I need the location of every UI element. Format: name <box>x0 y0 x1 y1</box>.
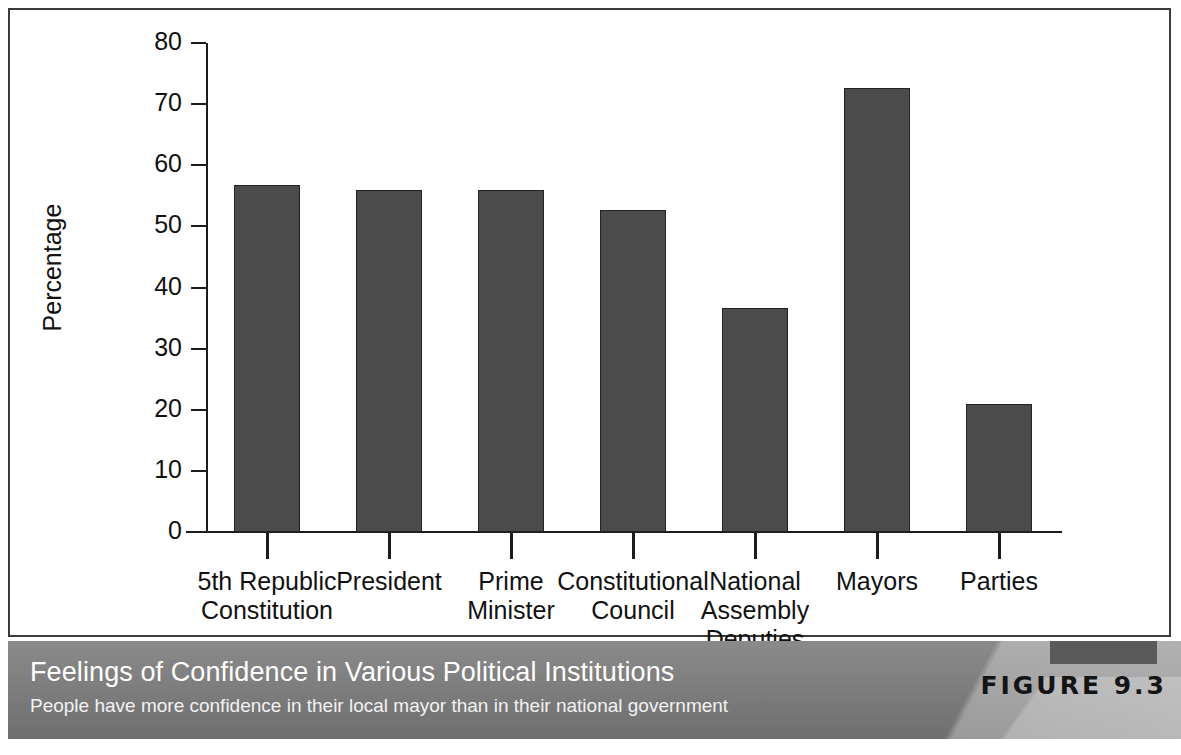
bar <box>478 190 544 532</box>
y-axis-tick <box>191 225 206 227</box>
y-axis-tick-label: 50 <box>122 212 182 237</box>
y-axis-tick-label: 20 <box>122 396 182 421</box>
y-axis-tick <box>191 470 206 472</box>
bar-series <box>206 43 1060 532</box>
caption-subtitle: People have more confidence in their loc… <box>30 695 728 717</box>
y-axis-tick-label: 10 <box>122 457 182 482</box>
x-axis-tick <box>510 533 513 559</box>
x-axis-tick <box>998 533 1001 559</box>
y-axis-tick <box>191 164 206 166</box>
chart-panel: Percentage 01020304050607080 5th Republi… <box>8 8 1171 637</box>
y-axis-tick-label: 70 <box>122 90 182 115</box>
bar <box>966 404 1032 532</box>
y-axis-tick <box>191 103 206 105</box>
y-axis-tick-label: 0 <box>122 518 182 543</box>
x-axis-tick <box>876 533 879 559</box>
bar <box>722 308 788 532</box>
bar <box>234 185 300 532</box>
y-axis-tick-label: 80 <box>122 29 182 54</box>
y-axis-tick <box>191 531 206 533</box>
y-axis-tick <box>191 348 206 350</box>
y-axis-tick <box>191 42 206 44</box>
bar <box>356 190 422 532</box>
y-axis-tick-label: 30 <box>122 335 182 360</box>
caption-title: Feelings of Confidence in Various Politi… <box>30 657 674 688</box>
caption-banner: Feelings of Confidence in Various Politi… <box>8 641 1181 739</box>
y-axis-tick <box>191 409 206 411</box>
y-axis-tick-label: 60 <box>122 151 182 176</box>
figure-number-tab <box>1050 641 1157 664</box>
x-axis-tick <box>754 533 757 559</box>
x-axis-tick <box>388 533 391 559</box>
x-axis-tick <box>266 533 269 559</box>
bar <box>844 88 910 532</box>
y-axis-tick-label: 40 <box>122 274 182 299</box>
x-axis-tick <box>632 533 635 559</box>
x-axis-tick-label: Parties <box>889 567 1109 596</box>
y-axis-tick <box>191 287 206 289</box>
figure-number-label: FIGURE 9.3 <box>980 671 1167 700</box>
figure-container: Percentage 01020304050607080 5th Republi… <box>0 0 1181 755</box>
y-axis-title: Percentage <box>38 118 67 418</box>
bar <box>600 210 666 532</box>
